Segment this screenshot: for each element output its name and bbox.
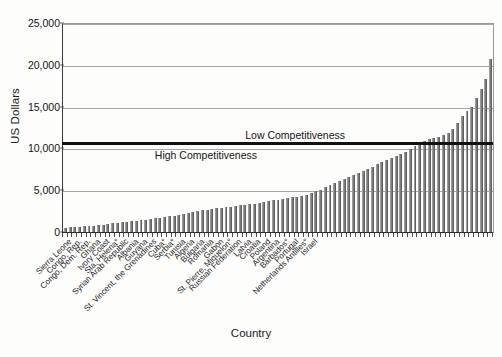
x-tick-mark [317, 233, 318, 237]
bar [173, 216, 176, 233]
bar [428, 139, 431, 233]
bar [432, 138, 435, 233]
x-tick-mark [402, 233, 403, 237]
bar [144, 220, 147, 233]
bar [168, 216, 171, 233]
x-tick-mark [270, 233, 271, 237]
bar [395, 156, 398, 233]
bar [253, 204, 256, 233]
x-tick-mark [100, 233, 101, 237]
plot-inner: Low Competitiveness High Competitiveness [63, 24, 493, 233]
bar [362, 171, 365, 233]
x-tick-mark [322, 233, 323, 237]
bar [201, 210, 204, 233]
bar [258, 203, 261, 233]
plot-area: Low Competitiveness High Competitiveness [62, 23, 494, 233]
bar [154, 218, 157, 233]
bar [423, 141, 426, 233]
x-tick-mark [473, 233, 474, 237]
bar [489, 59, 492, 233]
x-tick-mark [237, 233, 238, 237]
x-tick-mark [185, 233, 186, 237]
low-competitiveness-label: Low Competitiveness [245, 129, 345, 141]
x-tick-mark [374, 233, 375, 237]
x-tick-mark [341, 233, 342, 237]
bar [480, 89, 483, 233]
bar [206, 210, 209, 233]
x-tick-mark [483, 233, 484, 237]
bar [314, 191, 317, 233]
y-tick-label: 5,000 [10, 184, 60, 196]
x-tick-mark [416, 233, 417, 237]
x-tick-mark [412, 233, 413, 237]
bar [295, 197, 298, 233]
bar [267, 201, 270, 233]
bar [390, 158, 393, 233]
bar [484, 79, 487, 233]
x-tick-mark [289, 233, 290, 237]
x-tick-mark [397, 233, 398, 237]
bar [277, 200, 280, 233]
x-tick-mark [440, 233, 441, 237]
bar [399, 154, 402, 233]
bar [333, 183, 336, 233]
x-tick-mark [360, 233, 361, 237]
bar [338, 181, 341, 233]
x-tick-mark [194, 233, 195, 237]
x-tick-mark [327, 233, 328, 237]
bar [210, 209, 213, 233]
x-tick-mark [464, 233, 465, 237]
x-tick-mark [119, 233, 120, 237]
x-tick-mark [138, 233, 139, 237]
bar [418, 143, 421, 233]
y-tick-label: 20,000 [10, 59, 60, 71]
bar [470, 107, 473, 233]
bar [196, 211, 199, 233]
bar [442, 135, 445, 233]
x-tick-mark [232, 233, 233, 237]
bar [163, 217, 166, 233]
x-tick-mark [166, 233, 167, 237]
x-tick-mark [431, 233, 432, 237]
competitiveness-threshold-line [62, 142, 493, 145]
bar [291, 197, 294, 233]
x-tick-mark [393, 233, 394, 237]
bar [243, 205, 246, 233]
x-axis-title: Country [0, 327, 502, 339]
bar [225, 207, 228, 233]
bar [376, 164, 379, 233]
x-tick-mark [336, 233, 337, 237]
bar [220, 208, 223, 233]
x-tick-mark [445, 233, 446, 237]
x-tick-mark [487, 233, 488, 237]
bar [343, 179, 346, 233]
x-tick-mark [157, 233, 158, 237]
x-tick-mark [213, 233, 214, 237]
x-tick-mark [383, 233, 384, 237]
bar [409, 149, 412, 233]
bar [182, 214, 185, 233]
x-tick-mark [364, 233, 365, 237]
x-tick-mark [379, 233, 380, 237]
bar [475, 98, 478, 233]
x-tick-mark [109, 233, 110, 237]
x-tick-mark [204, 233, 205, 237]
x-axis-category-labels: Sierra LeoneCongo, Rep.Congo, Dem. Rep.G… [62, 237, 502, 319]
bar [239, 205, 242, 233]
x-tick-mark [426, 233, 427, 237]
bar [461, 116, 464, 233]
x-tick-mark [71, 233, 72, 237]
x-tick-mark [468, 233, 469, 237]
bar [149, 219, 152, 233]
x-tick-mark [128, 233, 129, 237]
bar [380, 162, 383, 233]
bar [191, 212, 194, 233]
x-tick-mark [459, 233, 460, 237]
x-tick-mark [388, 233, 389, 237]
bar [447, 133, 450, 233]
bar [366, 169, 369, 233]
chart-figure: US Dollars 05,00010,00015,00020,00025,00… [0, 0, 502, 357]
x-tick-mark [223, 233, 224, 237]
bar [310, 193, 313, 233]
x-tick-mark [492, 233, 493, 237]
